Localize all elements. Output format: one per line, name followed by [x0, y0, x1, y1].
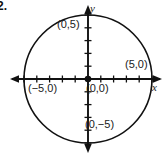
point-label-right: (5,0) — [125, 59, 148, 70]
x-axis-label: x — [152, 82, 157, 93]
x-axis-arrow-left — [10, 75, 19, 82]
circle-graph-figure: 2. — [0, 0, 164, 157]
coordinate-plane-graphic — [0, 0, 164, 157]
y-axis-label: y — [90, 3, 95, 14]
point-label-origin: (0,0) — [86, 83, 109, 94]
y-axis-arrow-down — [84, 144, 91, 153]
point-label-left: (−5,0) — [28, 83, 57, 94]
point-label-bottom: (0,−5) — [85, 119, 114, 130]
point-label-top: (0,5) — [57, 19, 80, 30]
